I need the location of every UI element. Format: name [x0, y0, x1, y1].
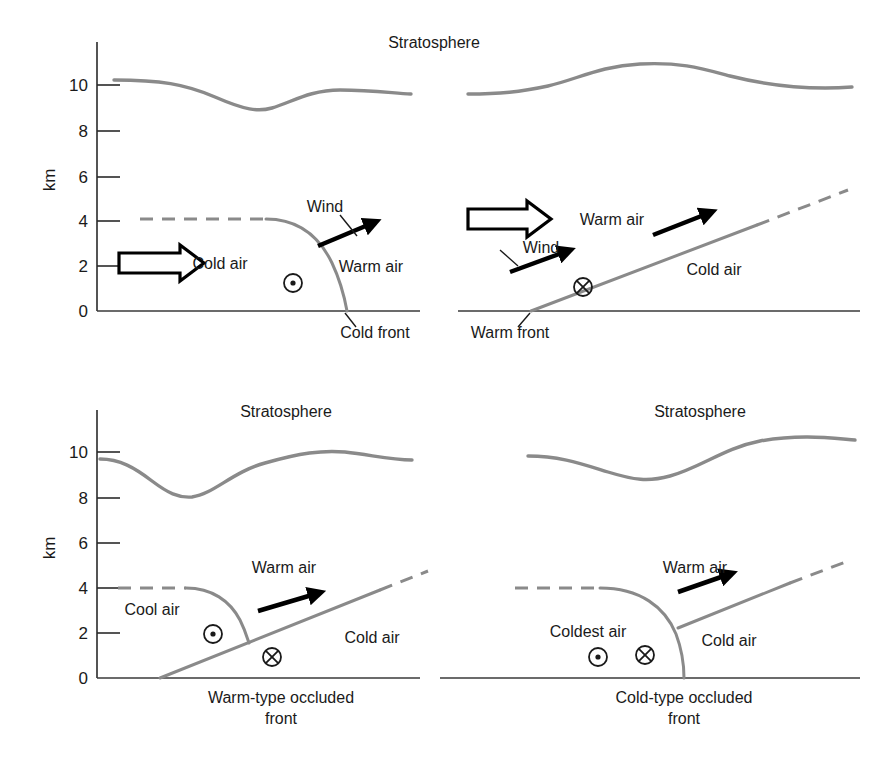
y-tick-label-10: 10 — [69, 76, 88, 95]
y-tick-label-0-panel3: 0 — [79, 669, 88, 688]
stratosphere-label-panel4: Stratosphere — [654, 403, 746, 420]
flow-out-of-page-icon-panel4 — [589, 648, 607, 666]
warm-air-label-panel4: Warm air — [663, 559, 728, 576]
y-axis-title-panel3: km — [40, 537, 59, 560]
warm-air-arrow-panel3 — [258, 595, 312, 611]
warm-air-label-panel1: Warm air — [339, 258, 404, 275]
cold-air-label-panel3: Cold air — [344, 629, 400, 646]
cool-air-surface — [186, 588, 249, 643]
tropopause-curve-panel2 — [468, 64, 852, 94]
warm-air-arrow-panel4 — [678, 576, 724, 592]
warm-front-surface-dashed — [757, 190, 848, 225]
cold-air-label-panel2: Cold air — [686, 261, 742, 278]
panel-warm-front: Warm air Wind Cold air Warm front — [458, 64, 860, 341]
upper-wind-arrow-panel2 — [653, 215, 704, 235]
occluded-front-label-line2-panel4: front — [668, 710, 701, 727]
tropopause-curve-panel1 — [114, 80, 411, 110]
flow-into-page-icon-panel2 — [574, 278, 592, 296]
wind-label-panel2: Wind — [523, 239, 559, 256]
panel-cold-front: 10 8 6 4 2 0 km Stratosphere Cold air Wa… — [40, 34, 480, 341]
y-tick-label-8: 8 — [79, 122, 88, 141]
warm-front-label: Warm front — [471, 324, 550, 341]
y-tick-label-2-panel3: 2 — [79, 624, 88, 643]
y-axis-title: km — [40, 169, 59, 192]
coldest-air-label-panel4: Coldest air — [550, 623, 627, 640]
cold-front-surface — [266, 219, 347, 311]
occluded-front-surface-dashed-panel3 — [380, 571, 428, 590]
occluded-front-surface-dashed-panel4 — [790, 561, 848, 583]
occluded-front-label-line1-panel3: Warm-type occluded — [208, 689, 354, 706]
flow-out-of-page-icon-panel1 — [284, 274, 302, 292]
tropopause-curve-panel3 — [100, 451, 412, 497]
cold-air-label-panel4: Cold air — [701, 632, 757, 649]
flow-into-page-icon-panel3 — [263, 648, 281, 666]
tropopause-curve-panel4 — [528, 437, 855, 479]
cold-front-label: Cold front — [340, 324, 410, 341]
occluded-front-surface-panel4 — [678, 583, 790, 628]
warm-air-block-arrow — [468, 201, 551, 237]
cold-air-label-panel1: Cold air — [192, 255, 248, 272]
wind-leader-panel2 — [500, 250, 518, 266]
flow-out-of-page-icon-panel3 — [204, 625, 222, 643]
wind-arrow-panel1 — [318, 225, 368, 246]
y-axis-panel1 — [97, 42, 120, 311]
weather-fronts-figure: 10 8 6 4 2 0 km Stratosphere Cold air Wa… — [0, 0, 885, 763]
y-tick-label-6-panel3: 6 — [79, 534, 88, 553]
stratosphere-label-panel3: Stratosphere — [240, 403, 332, 420]
stratosphere-label-panel1: Stratosphere — [388, 34, 480, 51]
warm-air-label-panel2: Warm air — [580, 211, 645, 228]
flow-into-page-icon-panel4 — [636, 646, 654, 664]
wind-label-panel1: Wind — [307, 198, 343, 215]
y-tick-label-6: 6 — [79, 168, 88, 187]
occluded-front-label-line2-panel3: front — [265, 710, 298, 727]
y-axis-panel3 — [97, 410, 120, 678]
y-tick-label-0: 0 — [79, 302, 88, 321]
y-tick-label-8-panel3: 8 — [79, 489, 88, 508]
y-tick-label-10-panel3: 10 — [69, 443, 88, 462]
cool-air-label-panel3: Cool air — [124, 601, 180, 618]
warm-air-label-panel3: Warm air — [252, 559, 317, 576]
panel-warm-type-occluded-front: 10 8 6 4 2 0 km Stratos — [40, 403, 428, 727]
fronts-diagram: 10 8 6 4 2 0 km Stratosphere Cold air Wa… — [0, 0, 885, 763]
cold-air-block-arrow — [119, 245, 204, 281]
panel-cold-type-occluded-front: Stratosphere Warm air Coldest air Cold a… — [440, 403, 860, 727]
y-tick-label-4: 4 — [79, 212, 88, 231]
occluded-front-label-line1-panel4: Cold-type occluded — [616, 689, 753, 706]
y-tick-label-4-panel3: 4 — [79, 579, 88, 598]
y-tick-label-2: 2 — [79, 257, 88, 276]
